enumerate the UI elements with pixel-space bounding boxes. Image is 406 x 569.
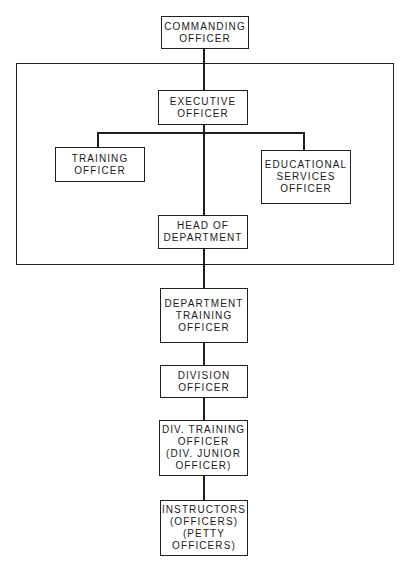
node-label: OFFICER bbox=[177, 108, 229, 120]
node-executive-officer: EXECUTIVE OFFICER bbox=[158, 90, 248, 125]
node-div-training-officer: DIV. TRAINING OFFICER (DIV. JUNIOR OFFIC… bbox=[159, 420, 248, 476]
node-training-officer: TRAINING OFFICER bbox=[55, 147, 145, 182]
connector-to-training-officer bbox=[97, 132, 99, 147]
node-division-officer: DIVISION OFFICER bbox=[160, 365, 248, 398]
node-label: TRAINING bbox=[72, 153, 129, 165]
connector-co-to-xo bbox=[203, 48, 205, 90]
connector-xo-to-hod bbox=[203, 125, 205, 215]
connector-divo-to-dtro bbox=[203, 397, 205, 420]
node-label: OFFICER bbox=[178, 436, 230, 448]
connector-to-educational-services bbox=[303, 132, 305, 150]
node-label: DEPARTMENT bbox=[164, 232, 243, 244]
node-label: DIVISION bbox=[178, 370, 231, 382]
node-label: OFFICER bbox=[179, 33, 231, 45]
node-label: (PETTY bbox=[183, 528, 225, 540]
node-commanding-officer: COMMANDING OFFICER bbox=[161, 16, 249, 49]
node-label: OFFICER) bbox=[175, 460, 231, 472]
node-label: SERVICES bbox=[276, 171, 335, 183]
node-educational-services-officer: EDUCATIONAL SERVICES OFFICER bbox=[261, 150, 351, 204]
node-label: DEPARTMENT bbox=[165, 298, 244, 310]
node-label: (OFFICERS) bbox=[170, 516, 238, 528]
node-label: EDUCATIONAL bbox=[265, 159, 347, 171]
node-department-training-officer: DEPARTMENT TRAINING OFFICER bbox=[160, 288, 248, 343]
connector-dto-to-divo bbox=[203, 342, 205, 365]
node-label: OFFICER bbox=[178, 322, 230, 334]
node-label: OFFICERS) bbox=[172, 540, 236, 552]
node-label: HEAD OF bbox=[177, 220, 229, 232]
node-label: OFFICER bbox=[280, 183, 332, 195]
connector-hod-to-dto bbox=[203, 248, 205, 288]
node-label: DIV. TRAINING bbox=[162, 424, 245, 436]
node-label: OFFICER bbox=[178, 382, 230, 394]
connector-dtro-to-instructors bbox=[203, 476, 205, 500]
node-label: TRAINING bbox=[176, 310, 233, 322]
node-instructors: INSTRUCTORS (OFFICERS) (PETTY OFFICERS) bbox=[160, 500, 248, 556]
connector-branch-horizontal bbox=[97, 132, 304, 134]
node-label: OFFICER bbox=[74, 165, 126, 177]
node-label: COMMANDING bbox=[164, 21, 246, 33]
node-label: (DIV. JUNIOR bbox=[166, 448, 241, 460]
node-label: INSTRUCTORS bbox=[162, 504, 246, 516]
node-head-of-department: HEAD OF DEPARTMENT bbox=[158, 215, 248, 249]
node-label: EXECUTIVE bbox=[170, 96, 237, 108]
